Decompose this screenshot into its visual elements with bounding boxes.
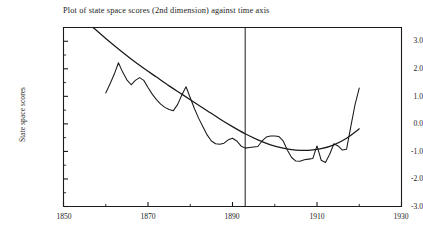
- x-tick-label: 1910: [297, 212, 337, 221]
- x-tick-label: 1850: [44, 212, 84, 221]
- plot-canvas: [0, 0, 423, 246]
- x-major-ticks: [64, 202, 402, 207]
- series-state-space-scores-observed: [106, 63, 360, 163]
- series-smooth-fitted-curve: [93, 28, 359, 151]
- chart-title: Plot of state space scores (2nd dimensio…: [63, 6, 269, 15]
- y-tick-label: 2.0: [389, 64, 423, 73]
- y-tick-label: 1.0: [389, 92, 423, 101]
- y-tick-label: 3.0: [389, 36, 423, 45]
- y-major-ticks: [64, 41, 69, 206]
- y-tick-label: 0.0: [389, 119, 423, 128]
- y-axis-label: State space scores: [18, 55, 27, 175]
- x-tick-label: 1890: [212, 212, 252, 221]
- x-tick-label: 1870: [128, 212, 168, 221]
- x-tick-label: 1930: [381, 212, 421, 221]
- y-tick-label: -2.0: [389, 174, 423, 183]
- y-tick-label: -3.0: [389, 202, 423, 211]
- y-tick-label: -1.0: [389, 147, 423, 156]
- chart-figure: Plot of state space scores (2nd dimensio…: [0, 0, 423, 246]
- plot-frame: [64, 28, 402, 207]
- axes-frame: [64, 28, 402, 207]
